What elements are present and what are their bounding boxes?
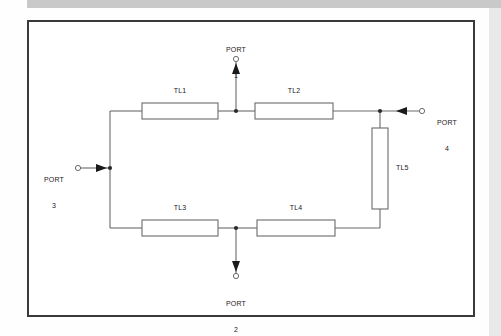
port4-label-name: PORT — [431, 119, 463, 128]
port4-arrowhead-left-icon — [396, 107, 407, 115]
port4-label: PORT 4 — [431, 102, 463, 170]
component-label-tl1: TL1 — [160, 87, 200, 96]
port3-label-number: 3 — [38, 202, 70, 211]
port2-label-name: PORT — [220, 300, 252, 309]
component-box-tl1 — [142, 103, 218, 119]
component-box-tl5 — [372, 128, 388, 209]
component-label-tl2: TL2 — [274, 87, 314, 96]
port3-label: PORT 3 — [38, 159, 70, 227]
port1-label: PORT 1 — [220, 29, 252, 97]
port4-label-number: 4 — [431, 145, 463, 154]
port3-terminal-circle[interactable] — [75, 165, 80, 170]
junction-dot-right-rail — [378, 109, 382, 113]
port2-terminal-circle[interactable] — [233, 273, 238, 278]
port3-label-name: PORT — [38, 176, 70, 185]
component-label-tl5: TL5 — [396, 164, 420, 173]
port2-arrowhead-down-icon — [232, 261, 240, 272]
component-box-tl2 — [255, 103, 333, 119]
component-label-tl4: TL4 — [276, 204, 316, 213]
port1-label-number: 1 — [220, 72, 252, 81]
port4-terminal-circle[interactable] — [419, 108, 424, 113]
figure-page: TL1 TL2 TL3 TL4 TL5 PORT 1 PORT 2 PORT 3… — [0, 0, 501, 336]
component-box-tl3 — [142, 220, 218, 236]
component-label-tl3: TL3 — [160, 204, 200, 213]
port2-label: PORT 2 — [220, 283, 252, 336]
port2-label-number: 2 — [220, 326, 252, 335]
port3-arrowhead-right-icon — [96, 164, 107, 172]
junction-dot-bottom-mid — [234, 226, 238, 230]
port1-label-name: PORT — [220, 46, 252, 55]
junction-dot-left-rail — [108, 166, 112, 170]
junction-dot-top-mid — [234, 109, 238, 113]
component-box-tl4 — [257, 220, 335, 236]
